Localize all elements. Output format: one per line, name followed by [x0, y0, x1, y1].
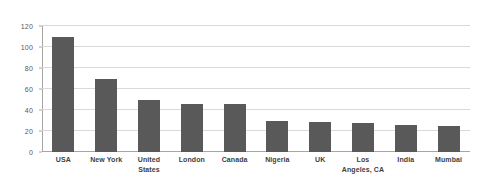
x-label-slot: India — [384, 155, 427, 175]
bar — [309, 122, 331, 152]
x-tick-label: London — [170, 155, 213, 165]
bars-layer — [42, 26, 470, 152]
bar — [52, 37, 74, 153]
x-label-slot: London — [170, 155, 213, 175]
y-tick-label: 40 — [25, 107, 33, 114]
x-tick-label: UK — [299, 155, 342, 165]
bar-slot — [42, 26, 85, 152]
bar-slot — [170, 26, 213, 152]
x-tick-label: Canada — [213, 155, 256, 165]
bar-slot — [342, 26, 385, 152]
bar-slot — [213, 26, 256, 152]
x-label-slot: Los Angeles, CA — [342, 155, 385, 175]
y-tick-label: 80 — [25, 65, 33, 72]
x-tick-label: Mumbai — [427, 155, 470, 165]
x-label-slot: Mumbai — [427, 155, 470, 175]
bar — [224, 104, 246, 152]
x-label-slot: USA — [42, 155, 85, 175]
y-tick-label: 20 — [25, 128, 33, 135]
x-label-slot: Nigeria — [256, 155, 299, 175]
y-tick-label: 120 — [21, 23, 33, 30]
bar — [395, 125, 417, 152]
x-label-slot: Canada — [213, 155, 256, 175]
bar — [95, 79, 117, 153]
x-tick-label: India — [384, 155, 427, 165]
bar-chart: 020406080100120 USANew YorkUnited States… — [0, 0, 489, 191]
x-tick-label: United States — [128, 155, 171, 175]
x-label-slot: UK — [299, 155, 342, 175]
bar-slot — [427, 26, 470, 152]
x-tick-label: New York — [85, 155, 128, 165]
y-tick-label: 0 — [29, 149, 33, 156]
bar-slot — [299, 26, 342, 152]
x-label-slot: New York — [85, 155, 128, 175]
x-axis-labels: USANew YorkUnited StatesLondonCanadaNige… — [42, 155, 470, 175]
bar — [138, 100, 160, 152]
bar-slot — [128, 26, 171, 152]
bar — [181, 104, 203, 152]
bar-slot — [384, 26, 427, 152]
y-tick-label: 100 — [21, 44, 33, 51]
x-tick-label: Los Angeles, CA — [342, 155, 385, 175]
y-axis-labels: 020406080100120 — [0, 26, 38, 152]
bar-slot — [85, 26, 128, 152]
x-tick-label: Nigeria — [256, 155, 299, 165]
y-tick-label: 60 — [25, 86, 33, 93]
bar — [438, 126, 460, 152]
x-tick-label: USA — [42, 155, 85, 165]
bar-slot — [256, 26, 299, 152]
plot-area — [42, 26, 470, 152]
bar — [266, 121, 288, 153]
bar — [352, 123, 374, 152]
x-label-slot: United States — [128, 155, 171, 175]
